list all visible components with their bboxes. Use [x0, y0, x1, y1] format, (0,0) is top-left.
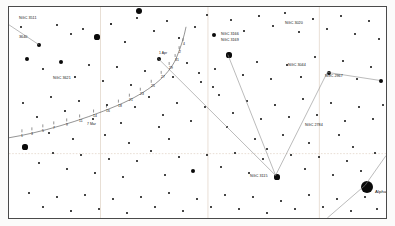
label-ngc-2784: NGC 2784: [305, 124, 323, 128]
label-track-day-5-2: 5: [42, 130, 44, 133]
label-n-3640: 3640: [19, 36, 27, 40]
chart-labels: NGC 35113640NGC 3621NGC 3166NGC 3169NGC …: [9, 7, 386, 218]
label-ngc-3020: NGC 3020: [285, 22, 303, 26]
label-ngc-3621: NGC 3621: [53, 77, 71, 81]
label-track-day-11-5: 11: [79, 120, 83, 123]
sky-chart-frame: NGC 35113640NGC 3621NGC 3166NGC 3169NGC …: [8, 6, 387, 219]
label-track-day-27-12: 27: [161, 76, 165, 79]
label-track-day-4-16: 4: [183, 43, 185, 46]
label-track-epoch: 7 Mar: [87, 123, 96, 126]
label-track-day-25-11: 25: [151, 85, 155, 88]
label-track-day-31-14: 31: [175, 59, 179, 62]
label-track-day-16-7: 16: [106, 110, 110, 113]
label-track-day-3-1: 3: [31, 133, 33, 136]
label-track-day-1-0: 1: [21, 135, 23, 138]
label-ngc-3115: NGC 3115: [250, 175, 268, 179]
label-track-day-23-10: 23: [140, 93, 144, 96]
star-chart-figure: NGC 35113640NGC 3621NGC 3166NGC 3169NGC …: [0, 0, 395, 226]
label-ngc-3511: NGC 3511: [19, 17, 37, 21]
label-track-day-7-3: 7: [53, 127, 55, 130]
label-ngc-2967: NGC 2967: [325, 75, 343, 79]
label-track-day-14-6: 14: [93, 115, 97, 118]
label-track-secondary: 1 Apr: [159, 52, 167, 55]
label-track-day-18-8: 18: [118, 105, 122, 108]
label-track-day-9-4: 9: [66, 124, 68, 127]
label-track-day-29-13: 29: [169, 67, 173, 70]
label-ngc-3044: NGC 3044: [288, 64, 306, 68]
label-track-day-2-15: 2: [179, 51, 181, 54]
label-ngc-3169: NGC 3169: [221, 39, 239, 43]
label-track-day-21-9: 21: [129, 99, 133, 102]
label-alphard: Alphard: [375, 190, 387, 194]
label-ngc-3166: NGC 3166: [221, 33, 239, 37]
